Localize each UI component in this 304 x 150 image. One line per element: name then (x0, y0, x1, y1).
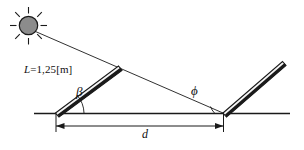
sun-icon (10, 7, 47, 45)
phi-angle-label: ϕ (191, 84, 198, 97)
solar-panel-geometry-figure: L=1,25[m] β ϕ d (0, 0, 304, 150)
beta-angle-label: β (76, 85, 82, 98)
right-panel-edge-shadow (225, 63, 286, 117)
panel-length-value: =1,25[m] (30, 63, 72, 75)
phi-angle-arc (211, 107, 215, 114)
dimension-arrow-right (215, 123, 224, 129)
right-solar-panel (223, 62, 286, 118)
sun-disc (19, 16, 37, 34)
distance-label: d (142, 128, 148, 140)
figure-canvas (0, 0, 304, 150)
panel-length-label: L=1,25[m] (24, 64, 72, 75)
left-panel-edge-shadow (58, 68, 122, 117)
distance-dimension-line (56, 114, 224, 132)
dimension-arrow-left (56, 123, 65, 129)
